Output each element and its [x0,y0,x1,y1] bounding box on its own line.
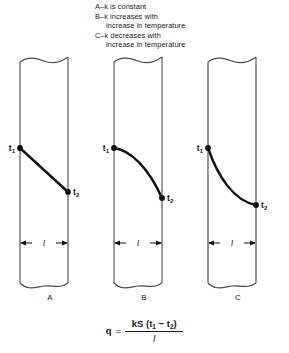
legend-line-a: A–k is constant [95,2,285,12]
dimension-label-a: l [43,238,46,248]
panel-label-a: A [2,293,98,302]
panel-b: l t1 t2 B [96,55,192,305]
legend-line-b: B–k increases with [95,12,285,22]
panel-label-b: B [96,293,192,302]
t2-label-a: t2 [73,187,80,198]
t1-label-a: t1 [9,143,16,154]
legend-line-c: C–k decreases with [95,31,285,41]
gradient-line-a [20,148,68,192]
slab-outline-c [208,57,256,288]
formula-numerator: kS (t1 − t2) [129,318,180,331]
dimension-label-b: l [137,238,140,248]
panel-c: l t1 t2 C [190,55,286,305]
slab-outline-b [114,57,162,288]
figure-group: l t1 t2 A l t1 [0,55,289,305]
dimension-label-c: l [231,238,234,248]
t1-label-b: t1 [103,143,110,154]
formula-equals: = [116,325,122,336]
gradient-curve-c [208,148,256,205]
heat-conduction-formula: q = kS (t1 − t2) l [0,318,289,344]
slab-outline-a [20,57,68,288]
t2-point-b [159,195,165,201]
t1-point-a [17,145,23,151]
formula-fraction: kS (t1 − t2) l [125,318,183,344]
t2-point-a [65,189,71,195]
t1-label-c: t1 [197,143,204,154]
t2-point-c [253,202,259,208]
formula-denominator: l [153,332,155,344]
panel-label-c: C [190,293,286,302]
legend-line-b-continued: increase in temperature [95,21,285,31]
t2-label-c: t2 [261,200,268,211]
t1-point-c [205,145,211,151]
panel-a: l t1 t2 A [2,55,98,305]
t2-label-b: t2 [167,193,174,204]
legend-line-c-continued: increase in temperature [95,40,285,50]
formula-lhs: q [106,325,112,336]
legend: A–k is constant B–k increases with incre… [95,2,285,50]
gradient-curve-b [114,148,162,198]
t1-point-b [111,145,117,151]
